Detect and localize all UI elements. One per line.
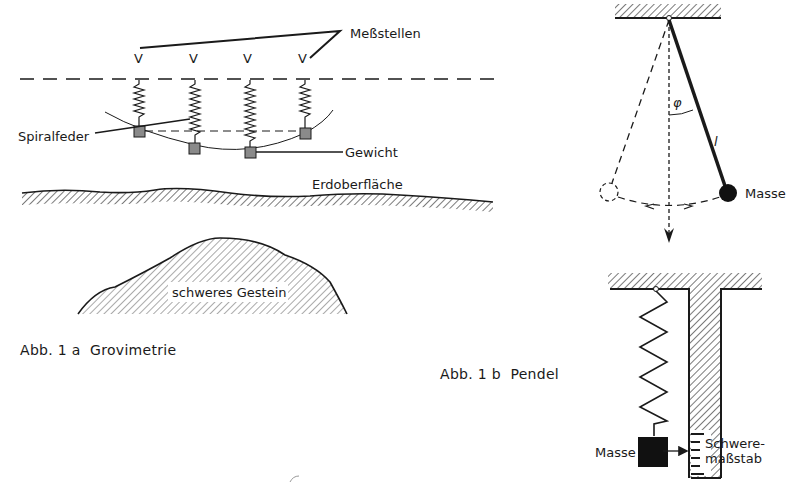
angle-arc	[669, 110, 693, 115]
pendulum-mass-ghost	[600, 183, 618, 201]
gauge-pivot	[654, 287, 659, 292]
label-earth-surface: Erdoberfläche	[312, 177, 403, 192]
label-weight: Gewicht	[345, 145, 398, 160]
page-artifact	[290, 476, 299, 482]
label-spiral-spring: Spiralfeder	[18, 129, 90, 144]
spring-4	[300, 80, 310, 128]
weight-4	[300, 128, 311, 139]
station-markers: V V V V	[134, 51, 307, 66]
caption-pendulum: Abb. 1 b Pendel	[440, 366, 559, 382]
spring-3	[245, 80, 255, 147]
weight-2	[189, 143, 200, 154]
spring-2	[190, 80, 200, 143]
station-marker-4: V	[298, 51, 307, 66]
figure-canvas: Meßstellen V V V V Spira	[0, 0, 800, 482]
caption-gravimetry: Abb. 1 a Grovimetrie	[20, 342, 176, 358]
measuring-points-leader	[140, 31, 340, 58]
length-symbol: l	[714, 134, 718, 149]
gauge-mass	[638, 437, 668, 467]
spiral-springs	[134, 80, 310, 147]
figure-pendulum: φ l Masse	[440, 4, 786, 478]
label-scale-line2: maßstab	[705, 451, 762, 466]
pendulum-left-position	[612, 20, 669, 183]
earth-surface	[22, 189, 493, 212]
pendulum-mass	[719, 184, 737, 202]
gauge-spring	[640, 291, 667, 436]
swing-arrow-right-icon	[684, 204, 692, 209]
station-marker-3: V	[243, 51, 252, 66]
heavy-rock-body	[78, 238, 347, 314]
label-measuring-points: Meßstellen	[350, 26, 421, 41]
station-marker-1: V	[134, 51, 143, 66]
angle-symbol: φ	[673, 95, 682, 110]
label-scale-line1: Schwere-	[705, 436, 765, 451]
label-pendulum-mass: Masse	[745, 186, 786, 201]
weight-3	[245, 147, 256, 158]
figure-gravimetry: Meßstellen V V V V Spira	[18, 26, 495, 358]
label-gauge-mass: Masse	[595, 445, 636, 460]
label-heavy-rock: schweres Gestein	[172, 285, 287, 300]
station-marker-2: V	[189, 51, 198, 66]
spring-1	[134, 80, 144, 126]
swing-arrow-left-icon	[646, 204, 654, 209]
